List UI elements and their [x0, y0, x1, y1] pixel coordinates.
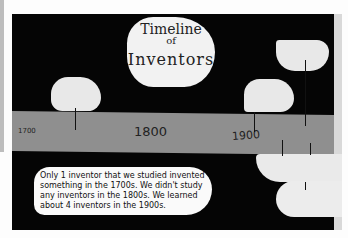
connector-line — [305, 182, 306, 190]
timeline-band — [12, 111, 334, 155]
connector-line — [305, 60, 306, 126]
title-card: Timeline of Inventors — [127, 17, 215, 87]
inventor-note-1900s-a — [244, 79, 294, 112]
year-label-1700: 1700 — [18, 127, 36, 135]
connector-line — [282, 140, 283, 156]
connector-line — [310, 143, 311, 155]
photo-frame: 1700 1800 1900 Timeline of Inventors Onl… — [0, 0, 348, 238]
connector-line — [254, 112, 255, 132]
inventor-note-1900s-b — [276, 40, 329, 71]
inventor-note-1900s-d — [276, 181, 342, 217]
inventor-note-1900s-c — [256, 154, 342, 182]
connector-line — [75, 108, 76, 130]
title-line-3: Inventors — [127, 50, 215, 69]
year-label-1900: 1900 — [232, 128, 261, 143]
paper-edge — [0, 0, 4, 152]
summary-note: Only 1 inventor that we studied invented… — [34, 167, 212, 215]
year-label-1800: 1800 — [134, 124, 167, 139]
inventor-note-1700s — [51, 77, 101, 111]
